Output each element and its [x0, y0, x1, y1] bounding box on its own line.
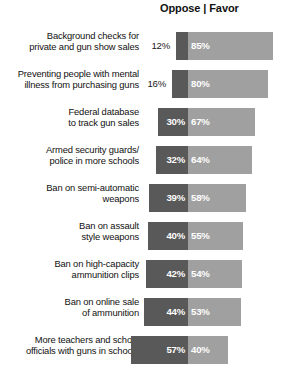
row-category-label: Ban on online saleof ammunition	[0, 296, 139, 319]
chart-row: Background checks forprivate and gun sho…	[0, 32, 285, 60]
row-category-line: Preventing people with mental	[0, 68, 139, 79]
row-category-line: ammunition clips	[0, 269, 139, 280]
bar-favor-value: 85%	[191, 32, 273, 60]
row-category-label: More teachers and schoolofficials with g…	[0, 334, 139, 357]
chart-row: Armed security guards/police in more sch…	[0, 146, 285, 174]
row-category-line: Ban on semi-automatic	[0, 182, 139, 193]
bar-favor-value: 55%	[191, 222, 243, 250]
row-category-line: Armed security guards/	[0, 144, 139, 155]
row-category-line: weapons	[0, 193, 139, 204]
row-category-line: More teachers and school	[0, 334, 139, 345]
bar-favor-value: 54%	[191, 260, 242, 288]
chart-row: Ban on assaultstyle weapons40%55%	[0, 222, 285, 250]
row-category-line: illness from purchasing guns	[0, 79, 139, 90]
bar-favor-value: 58%	[191, 184, 246, 212]
chart-row: Federal databaseto track gun sales30%67%	[0, 108, 285, 136]
bar-oppose-value: 40%	[148, 222, 185, 250]
bar-oppose-value: 44%	[144, 298, 185, 326]
bar-favor-value: 53%	[191, 298, 241, 326]
row-category-line: of ammunition	[0, 307, 139, 318]
row-category-line: police in more schools	[0, 155, 139, 166]
bar-favor-value: 64%	[191, 146, 252, 174]
bar-oppose-value: 12%	[142, 32, 170, 60]
bar-oppose-value: 32%	[156, 146, 185, 174]
row-category-label: Background checks forprivate and gun sho…	[0, 30, 139, 53]
diverging-bar-chart: Oppose | Favor Background checks forpriv…	[0, 0, 285, 378]
bar-favor-value: 80%	[191, 70, 268, 98]
bar-favor-value: 40%	[191, 336, 228, 364]
bar-favor-value: 67%	[191, 108, 255, 136]
chart-row: Ban on high-capacityammunition clips42%5…	[0, 260, 285, 288]
row-category-line: style weapons	[0, 231, 139, 242]
row-category-label: Preventing people with mentalillness fro…	[0, 68, 139, 91]
chart-row: More teachers and schoolofficials with g…	[0, 336, 285, 364]
row-category-label: Federal databaseto track gun sales	[0, 106, 139, 129]
row-category-line: Background checks for	[0, 30, 139, 41]
row-category-line: to track gun sales	[0, 117, 139, 128]
row-category-line: Federal database	[0, 106, 139, 117]
row-category-label: Ban on semi-automaticweapons	[0, 182, 139, 205]
bar-oppose-value: 30%	[158, 108, 185, 136]
bar-oppose-value: 42%	[146, 260, 185, 288]
chart-legend-header: Oppose | Favor	[160, 2, 239, 14]
row-category-label: Ban on assaultstyle weapons	[0, 220, 139, 243]
chart-row: Preventing people with mentalillness fro…	[0, 70, 285, 98]
row-category-line: Ban on online sale	[0, 296, 139, 307]
chart-row: Ban on online saleof ammunition44%53%	[0, 298, 285, 326]
bar-oppose	[172, 70, 188, 98]
row-category-label: Ban on high-capacityammunition clips	[0, 258, 139, 281]
bar-oppose-value: 57%	[131, 336, 185, 364]
row-category-label: Armed security guards/police in more sch…	[0, 144, 139, 167]
bar-oppose-value: 16%	[138, 70, 166, 98]
row-category-line: Ban on high-capacity	[0, 258, 139, 269]
bar-oppose	[176, 32, 188, 60]
chart-row: Ban on semi-automaticweapons39%58%	[0, 184, 285, 212]
row-category-line: officials with guns in schools	[0, 345, 139, 356]
row-category-line: private and gun show sales	[0, 41, 139, 52]
row-category-line: Ban on assault	[0, 220, 139, 231]
bar-oppose-value: 39%	[149, 184, 185, 212]
